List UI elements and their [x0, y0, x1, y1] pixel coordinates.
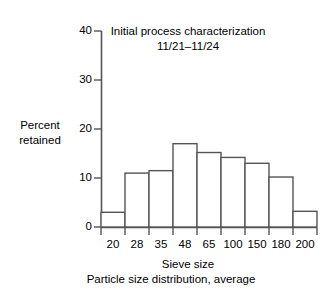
histogram-bars: [101, 144, 317, 227]
chart-caption: Particle size distribution, average: [0, 273, 332, 285]
histogram-bar: [101, 212, 125, 227]
histogram-bar: [269, 177, 293, 227]
x-axis-ticks: [101, 228, 317, 236]
y-tick-label-40: 40: [66, 24, 92, 36]
histogram-bar: [293, 211, 317, 227]
y-tick-label-30: 30: [66, 73, 92, 85]
chart-figure: Initial process characterization 11/21–1…: [0, 0, 332, 294]
histogram-bar: [197, 153, 221, 227]
y-axis-label-line2: retained: [4, 133, 76, 148]
histogram-bar: [149, 171, 173, 227]
y-tick-label-10: 10: [66, 171, 92, 183]
histogram-bar: [173, 144, 197, 227]
y-tick-label-20: 20: [66, 122, 92, 134]
y-tick-label-0: 0: [66, 220, 92, 232]
histogram-bar: [221, 157, 245, 227]
chart-title: Initial process characterization: [0, 24, 332, 38]
y-axis-ticks: [94, 31, 102, 227]
x-axis-label: Sieve size: [0, 258, 332, 270]
histogram-bar: [245, 163, 269, 227]
histogram-bar: [125, 173, 149, 227]
x-tick-label-200: 200: [290, 238, 320, 250]
chart-subtitle: 11/21–11/24: [0, 39, 332, 53]
